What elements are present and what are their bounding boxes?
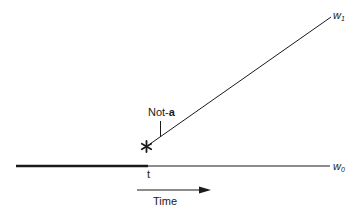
w0-label-sub: 0 bbox=[341, 166, 345, 173]
time-arrow-head bbox=[199, 187, 211, 194]
branching-time-diagram bbox=[0, 0, 361, 217]
w1-label-sub: 1 bbox=[341, 15, 345, 22]
time-axis-label: Time bbox=[153, 196, 177, 207]
time-point-label: t bbox=[147, 169, 150, 180]
not-a-label: Not-a bbox=[148, 107, 175, 118]
asterisk-icon bbox=[142, 141, 151, 152]
not-a-prefix: Not- bbox=[148, 106, 169, 118]
w1-label: w1 bbox=[333, 10, 345, 22]
w0-label-base: w bbox=[333, 160, 341, 172]
not-a-bold: a bbox=[169, 106, 175, 118]
w1-branch-line bbox=[150, 17, 331, 144]
w0-label: w0 bbox=[333, 161, 345, 173]
w1-label-base: w bbox=[333, 9, 341, 21]
